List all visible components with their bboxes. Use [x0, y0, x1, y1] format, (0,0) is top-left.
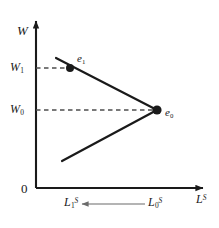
y-tick-w1-subscript: 1	[20, 66, 24, 75]
x-annotation-l0-base: L	[148, 195, 155, 209]
y-tick-label-w0: W0	[10, 103, 24, 116]
x-annotation-l0-superscript: S	[159, 196, 163, 205]
x-annotation-label-l1: L1S	[64, 196, 78, 209]
y-tick-w0-subscript: 0	[20, 108, 24, 117]
point-e0-subscript: 0	[170, 112, 174, 119]
diagram-canvas	[0, 0, 219, 228]
x-annotation-l1-superscript: S	[75, 196, 79, 205]
x-annotation-label-l0: L0S	[148, 196, 162, 209]
origin-label: 0	[21, 182, 28, 195]
labor-supply-diagram: W W1 W0 0 e1 e0 L1S L0S LS	[0, 0, 219, 228]
point-e0-marker	[152, 105, 161, 114]
point-e0-label: e0	[165, 107, 173, 119]
x-axis-label: LS	[196, 193, 206, 205]
x-axis-label-superscript: S	[203, 193, 207, 202]
point-e1-subscript: 1	[82, 58, 86, 65]
x-axis-label-base: L	[196, 192, 203, 206]
x-annotation-l1-base: L	[64, 195, 71, 209]
y-tick-w0-base: W	[10, 102, 20, 116]
y-tick-w1-base: W	[10, 60, 20, 74]
y-tick-label-w1: W1	[10, 61, 24, 74]
y-axis-label: W	[17, 24, 28, 37]
point-e1-label: e1	[77, 53, 85, 65]
point-e1-marker	[66, 64, 74, 72]
supply-curve-lower-branch	[62, 110, 157, 161]
